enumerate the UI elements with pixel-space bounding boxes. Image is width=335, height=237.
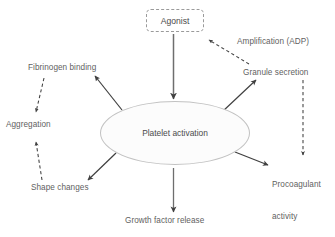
node-aggregation: Aggregation <box>6 120 51 131</box>
node-procoagulant-activity-line1: Procoagulant <box>272 180 321 191</box>
node-procoagulant-activity-line2: activity <box>272 212 321 223</box>
edge-label-amplification: Amplification (ADP) <box>237 37 309 48</box>
edge-platelet-to-granule <box>222 80 256 112</box>
edge-fibrinogen-to-aggregation <box>36 78 44 112</box>
node-procoagulant-activity: Procoagulant activity <box>272 159 321 237</box>
node-shape-changes: Shape changes <box>31 183 89 194</box>
node-agonist[interactable]: Agonist <box>146 9 204 32</box>
node-agonist-label: Agonist <box>161 16 190 26</box>
edge-shape-changes-to-aggregation <box>36 142 42 180</box>
edge-platelet-to-shape-changes <box>88 153 116 180</box>
node-fibrinogen-binding: Fibrinogen binding <box>28 63 96 74</box>
node-granule-secretion: Granule secretion <box>243 68 308 79</box>
node-platelet-activation-label: Platelet activation <box>142 128 208 138</box>
node-platelet-activation[interactable]: Platelet activation <box>100 101 250 165</box>
edge-platelet-to-procoagulant <box>235 152 268 165</box>
platelet-activation-diagram: Agonist Platelet activation Fibrinogen b… <box>0 0 335 237</box>
edge-platelet-to-fibrinogen <box>95 76 122 110</box>
node-growth-factor-release: Growth factor release <box>125 216 204 227</box>
